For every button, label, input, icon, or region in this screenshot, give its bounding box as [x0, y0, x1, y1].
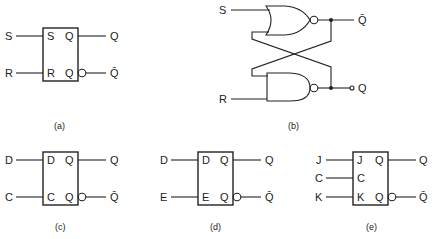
- caption-a: (a): [54, 121, 65, 131]
- figure-a-sr-flipflop: S R S R Q Q Q Q̄ (a): [5, 28, 119, 131]
- figure-e-jk-flipflop: J C K J C K Q Q Q Q̄ (e): [315, 152, 428, 232]
- input-label-e: E: [160, 191, 167, 203]
- pin-label-c: C: [357, 172, 365, 184]
- caption-e: (e): [366, 222, 377, 232]
- pin-label-qbar: Q: [65, 191, 74, 203]
- pin-label-j: J: [357, 154, 363, 166]
- caption-b: (b): [288, 121, 299, 131]
- pin-label-d: D: [47, 154, 55, 166]
- input-label-c: C: [5, 191, 13, 203]
- feedback-wire: [252, 32, 331, 88]
- caption-d: (d): [210, 222, 221, 232]
- pin-label-q: Q: [65, 154, 74, 166]
- pin-label-qbar: Q: [375, 191, 384, 203]
- figure-d-d-latch: D E D E Q Q Q Q̄ (d): [160, 152, 274, 232]
- input-label-c: C: [315, 172, 323, 184]
- pin-label-k: K: [357, 191, 365, 203]
- pin-label-qbar: Q: [65, 67, 74, 79]
- output-label-qbar: Q̄: [110, 191, 119, 203]
- input-label-k: K: [315, 191, 323, 203]
- pin-label-s: S: [47, 30, 54, 42]
- pin-label-q: Q: [220, 154, 229, 166]
- output-label-q: Q: [265, 154, 274, 166]
- output-label-q: Q: [419, 154, 428, 166]
- inversion-bubble-icon: [388, 193, 396, 201]
- input-label-r: R: [5, 67, 13, 79]
- output-label-q: Q: [358, 82, 367, 94]
- output-label-qbar: Q̄: [265, 191, 274, 203]
- pin-label-e: E: [202, 191, 209, 203]
- inversion-bubble-icon: [233, 193, 241, 201]
- input-label-r: R: [219, 93, 227, 105]
- output-label-qbar: Q̄: [419, 191, 428, 203]
- output-label-q: Q: [110, 30, 119, 42]
- pin-label-d: D: [202, 154, 210, 166]
- pin-label-r: R: [47, 67, 55, 79]
- figure-c-d-flipflop: D C D C Q Q Q Q̄ (c): [5, 152, 119, 232]
- nor-gate-icon: [266, 6, 310, 35]
- output-label-qbar: Q̄: [110, 67, 119, 79]
- input-label-s: S: [219, 4, 226, 16]
- flip-flop-diagram: S R S R Q Q Q Q̄ (a) S R Q̄ Q: [0, 0, 433, 239]
- output-terminal-icon: [350, 86, 354, 90]
- input-label-s: S: [5, 30, 12, 42]
- inversion-bubble-icon: [310, 16, 318, 24]
- nor-gate-icon: [267, 73, 310, 101]
- input-label-d: D: [160, 154, 168, 166]
- input-label-j: J: [316, 154, 322, 166]
- inversion-bubble-icon: [310, 84, 318, 92]
- figure-b-sr-latch: S R Q̄ Q (b): [219, 4, 367, 131]
- output-label-q: Q: [110, 154, 119, 166]
- feedback-wire: [252, 20, 331, 76]
- pin-label-c: C: [47, 191, 55, 203]
- caption-c: (c): [55, 222, 66, 232]
- pin-label-q: Q: [375, 154, 384, 166]
- pin-label-q: Q: [65, 30, 74, 42]
- output-label-qbar: Q̄: [358, 14, 367, 26]
- inversion-bubble-icon: [78, 69, 86, 77]
- pin-label-qbar: Q: [220, 191, 229, 203]
- inversion-bubble-icon: [78, 193, 86, 201]
- input-label-d: D: [5, 154, 13, 166]
